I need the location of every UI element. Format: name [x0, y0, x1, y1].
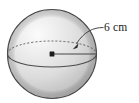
- sphere-illustration: [0, 0, 139, 103]
- sphere-center-dot: [50, 52, 55, 57]
- sphere-diagram-figure: 6 cm: [0, 0, 139, 103]
- radius-measurement-label: 6 cm: [104, 21, 127, 34]
